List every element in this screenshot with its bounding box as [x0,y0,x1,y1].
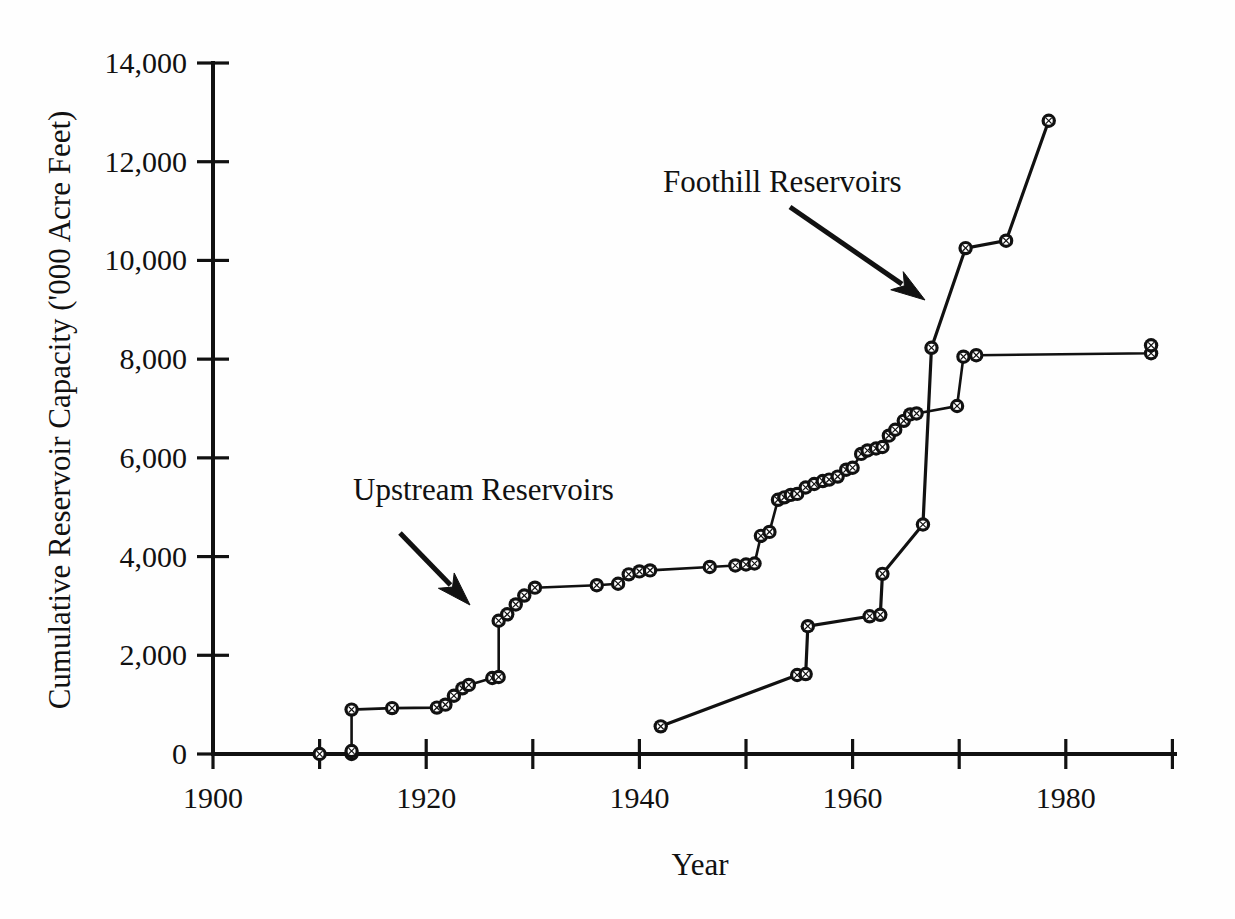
x-axis-tick-label: 1980 [1036,781,1096,814]
y-axis-tick-label: 0 [172,737,187,770]
series-polyline [320,345,1151,754]
annotation-arrow-shaft [790,207,902,284]
data-point-marker [999,233,1013,247]
series-2 [654,114,1056,734]
y-axis-tick-label: 10,000 [105,243,188,276]
y-axis-title: Cumulative Reservoir Capacity ('000 Acre… [42,111,77,710]
data-point-marker [385,701,399,715]
data-point-marker [801,619,815,633]
data-point-marker [590,578,604,592]
data-point-marker [344,702,358,716]
data-point-marker [703,560,717,574]
y-axis [197,63,229,754]
x-axis-tick-label: 1900 [183,781,243,814]
data-point-marker [747,556,761,570]
data-point-marker [312,747,326,761]
data-point-marker [643,563,657,577]
data-point-marker [958,241,972,255]
data-point-marker [969,348,983,362]
data-point-marker [950,399,964,413]
annotation-arrow-head [891,272,925,300]
x-axis-tick-label: 1920 [396,781,456,814]
data-point-marker [528,580,542,594]
x-axis-title: Year [671,847,729,882]
annotation-arrow-shaft [400,533,450,585]
x-axis-tick-label: 1960 [823,781,883,814]
data-point-marker [916,517,930,531]
data-point-marker [956,349,970,363]
reservoir-capacity-chart: 02,0004,0006,0008,00010,00012,00014,000 … [0,0,1235,919]
y-axis-tick-label: 14,000 [105,46,188,79]
data-point-marker [491,670,505,684]
chart-page: 02,0004,0006,0008,00010,00012,00014,000 … [0,0,1235,919]
data-point-marker [845,461,859,475]
data-point-marker [924,341,938,355]
data-series-group [312,114,1158,762]
annotation-2: Foothill Reservoirs [663,164,925,300]
data-point-marker [875,567,889,581]
series-polyline [661,121,1049,727]
annotation-label: Upstream Reservoirs [353,472,614,507]
data-point-marker [1144,338,1158,352]
data-point-marker [344,744,358,758]
y-axis-tick-label: 8,000 [120,342,188,375]
data-point-marker [1042,114,1056,128]
y-axis-tick-labels: 02,0004,0006,0008,00010,00012,00014,000 [105,46,188,770]
y-axis-tick-label: 4,000 [120,540,188,573]
data-point-marker [909,406,923,420]
data-point-marker [462,678,476,692]
y-axis-tick-label: 2,000 [120,638,188,671]
data-point-marker [762,525,776,539]
y-axis-tick-label: 12,000 [105,145,188,178]
x-axis-tick-label: 1940 [609,781,669,814]
data-point-marker [654,719,668,733]
x-axis-tick-labels: 19001920194019601980 [183,781,1096,814]
annotation-label: Foothill Reservoirs [663,164,902,199]
annotations-group: Upstream ReservoirsFoothill Reservoirs [353,164,925,605]
y-axis-tick-label: 6,000 [120,441,188,474]
data-point-marker [798,667,812,681]
data-point-marker [873,608,887,622]
